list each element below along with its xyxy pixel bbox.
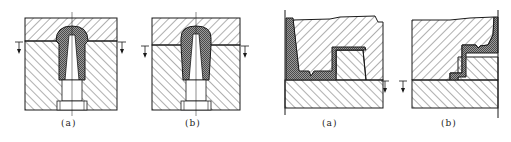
figure-1a [15, 12, 126, 116]
figure-2b [399, 10, 498, 118]
parting-arrow-icon [141, 46, 149, 58]
lower-mold-block [412, 80, 498, 108]
mold-diagram [0, 0, 511, 142]
figure-2b-label: (b) [441, 118, 457, 128]
figure-2a [285, 10, 389, 115]
lower-mold-step [336, 50, 366, 80]
figure-1a-label: (a) [61, 118, 76, 128]
parting-arrow-icon [241, 46, 249, 58]
parting-arrow-icon [118, 42, 126, 54]
figure-2a-label: (a) [322, 118, 337, 128]
figure-1b-label: (b) [185, 118, 201, 128]
parting-arrow-icon [399, 81, 407, 93]
figure-1b [141, 12, 249, 116]
parting-arrow-icon [15, 42, 23, 54]
lower-mold-block [285, 80, 383, 108]
